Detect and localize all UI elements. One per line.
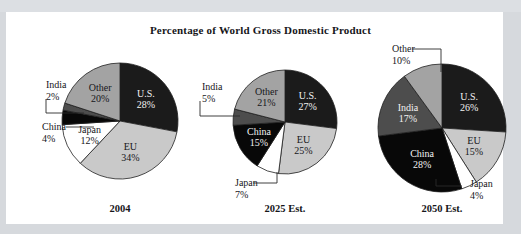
slice-label-value: 28% [137, 99, 155, 110]
slice-label-name: Other [89, 82, 112, 93]
slice-label-name: EU [467, 135, 481, 146]
callout-label-other: Other [392, 43, 415, 54]
callout-value-japan: 7% [235, 189, 248, 200]
slice-label-name: Other [255, 86, 278, 97]
pie-3: U.S.26%EU15%China28%India17%Other10%Japa… [378, 43, 506, 214]
slice-label-name: EU [124, 141, 138, 152]
slice-label-value: 15% [250, 137, 268, 148]
slice-label-value: 25% [294, 145, 312, 156]
slice-label-name: U.S. [299, 90, 317, 101]
callout-label-japan: Japan [235, 177, 258, 188]
slice-label-name: EU [297, 134, 311, 145]
callout-value-india: 2% [46, 91, 59, 102]
pie-2: U.S.27%EU25%China15%Other21%India5%Japan… [200, 70, 337, 214]
slice-label-name: China [247, 126, 271, 137]
slice-label-value: 12% [80, 135, 98, 146]
slice-label-value: 28% [413, 159, 431, 170]
slice-label-name: U.S. [137, 88, 155, 99]
slice-label-value: 26% [460, 102, 478, 113]
figure-container: Percentage of World Gross Domestic Produ… [0, 0, 521, 234]
slice-label-value: 34% [121, 152, 139, 163]
slice-label-value: 27% [298, 101, 316, 112]
slice-label-name: Japan [78, 124, 101, 135]
pie-caption-1: 2004 [110, 203, 132, 214]
callout-value-india: 5% [202, 93, 215, 104]
callout-value-china: 4% [42, 133, 55, 144]
pie-chart-group: U.S.28%EU34%Japan12%Other20%India2%China… [0, 0, 521, 234]
slice-label-value: 20% [91, 93, 109, 104]
slice-label-name: India [398, 102, 419, 113]
pie-caption-3: 2050 Est. [422, 203, 463, 214]
pie-1: U.S.28%EU34%Japan12%Other20%India2%China… [42, 63, 178, 214]
callout-value-other: 10% [392, 55, 410, 66]
slice-label-value: 17% [399, 113, 417, 124]
slice-label-value: 21% [257, 97, 275, 108]
callout-label-japan: Japan [470, 178, 493, 189]
pie-caption-2: 2025 Est. [265, 203, 306, 214]
slice-label-name: China [410, 148, 434, 159]
callout-label-china: China [42, 121, 66, 132]
slice-label-name: U.S. [460, 91, 478, 102]
slice-label-value: 15% [465, 146, 483, 157]
callout-label-india: India [46, 79, 67, 90]
callout-label-india: India [202, 81, 223, 92]
callout-value-japan: 4% [470, 190, 483, 201]
